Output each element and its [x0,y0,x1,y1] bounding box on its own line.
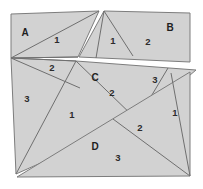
region-c-piece-2: 3 [24,93,29,104]
region-a-label: A [21,27,28,38]
region-c-label: C [91,72,98,83]
region-c-piece-3: 2 [109,87,114,98]
region-b-label: B [166,22,173,33]
region-d-piece-3: 3 [115,152,120,163]
figure-canvas: A 1 B 1 2 C 2 3 2 3 1 [0,0,203,189]
region-c-piece-5: 1 [69,109,75,120]
region-d-label: D [91,141,98,152]
region-c-piece-1: 2 [49,62,54,73]
dissection-figure: A 1 B 1 2 C 2 3 2 3 1 [0,0,203,189]
region-c-piece-4: 3 [152,74,157,85]
region-d-piece-2: 1 [172,107,178,118]
region-d-piece-1: 2 [137,122,142,133]
region-a-piece-1: 1 [54,34,60,45]
region-b-piece-2: 2 [145,36,150,47]
region-b-piece-1: 1 [110,35,116,46]
